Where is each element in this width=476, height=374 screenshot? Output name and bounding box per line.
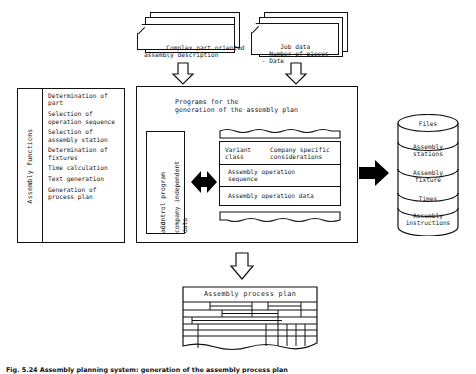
control-program-line-4: data: [181, 218, 188, 233]
assembly-functions-side-label: Assembly functions: [18, 89, 43, 242]
arrow-down-input-1: [172, 62, 194, 85]
control-program-text-group: Control program and company independent …: [147, 132, 184, 233]
database-section-assembly-instructions: Assembly instructions: [396, 212, 460, 226]
programs-title: Programs for the generation of the assem…: [175, 98, 298, 114]
function-item-text-generation[interactable]: Text generation: [43, 175, 124, 182]
double-arrow-control-to-variant: [191, 167, 217, 197]
control-program-line-3: company independent: [173, 161, 180, 233]
variant-table-header-row: Variant class Company specific considera…: [220, 142, 340, 165]
variant-class-header: Variant class: [225, 146, 251, 161]
arrow-down-input-2: [285, 62, 307, 85]
doc-front-complex-part: Complex part oriented assembly descripti…: [137, 24, 235, 50]
assembly-operation-sequence-text: Assembly operation sequence: [228, 168, 295, 183]
output-title: Assembly process plan: [182, 290, 318, 298]
database-section-times: Times: [396, 195, 460, 202]
variant-table-row-data[interactable]: Assembly operation data: [220, 187, 340, 206]
input-document-job-data: Job data - Number of pieces - Date: [250, 12, 356, 62]
programs-main-box: Programs for the generation of the assem…: [136, 86, 358, 243]
variant-class-table: Variant class Company specific considera…: [219, 141, 341, 206]
arrow-down-output: [230, 252, 254, 280]
control-program-line-1: Control program: [159, 172, 166, 229]
assembly-functions-label-text: Assembly functions: [26, 128, 34, 203]
assembly-functions-list: Determination of part Selection of opera…: [43, 89, 124, 242]
company-considerations-header: Company specific considerations: [270, 146, 330, 161]
database-section-files: Files: [396, 120, 460, 127]
function-item-generation-process-plan[interactable]: Generation of process plan: [43, 186, 124, 201]
doc-text-job-data: Job data - Number of pieces - Date: [258, 43, 329, 65]
output-assembly-process-plan: Assembly process plan: [182, 286, 318, 352]
function-item-time-calculation[interactable]: Time calculation: [43, 164, 124, 171]
page-fold-icon: [131, 20, 144, 33]
figure-caption: Fig. 5.24 Assembly planning system: gene…: [6, 366, 288, 374]
page-fold-icon: [245, 19, 258, 32]
arrow-main-to-database: [359, 158, 389, 188]
database-section-assembly-fixture: Assembly fixture: [396, 169, 460, 183]
assembly-operation-data-text: Assembly operation data: [228, 192, 314, 199]
control-program-line-2: and: [159, 222, 166, 233]
database-cylinder-stack: Files Assembly stations Assembly fixture…: [396, 114, 460, 236]
variant-table-row-sequence[interactable]: Assembly operation sequence: [220, 165, 340, 187]
database-section-assembly-stations: Assembly stations: [396, 143, 460, 157]
function-item-selection-assembly-station[interactable]: Selection of assembly station: [43, 128, 124, 143]
doc-front-job-data: Job data - Number of pieces - Date: [251, 23, 339, 55]
torn-strip-bottom: [219, 211, 341, 224]
doc-text-complex-part: Complex part oriented assembly descripti…: [144, 44, 245, 58]
function-item-determination-part[interactable]: Determination of part: [43, 92, 124, 107]
function-item-determination-fixtures[interactable]: Determination of fixtures: [43, 146, 124, 161]
torn-strip-top: [219, 127, 341, 139]
input-document-complex-part: Complex part oriented assembly descripti…: [136, 12, 242, 60]
assembly-functions-panel: Assembly functions Determination of part…: [17, 88, 125, 243]
function-item-selection-operation-sequence[interactable]: Selection of operation sequence: [43, 110, 124, 125]
control-program-box: Control program and company independent …: [146, 131, 185, 234]
